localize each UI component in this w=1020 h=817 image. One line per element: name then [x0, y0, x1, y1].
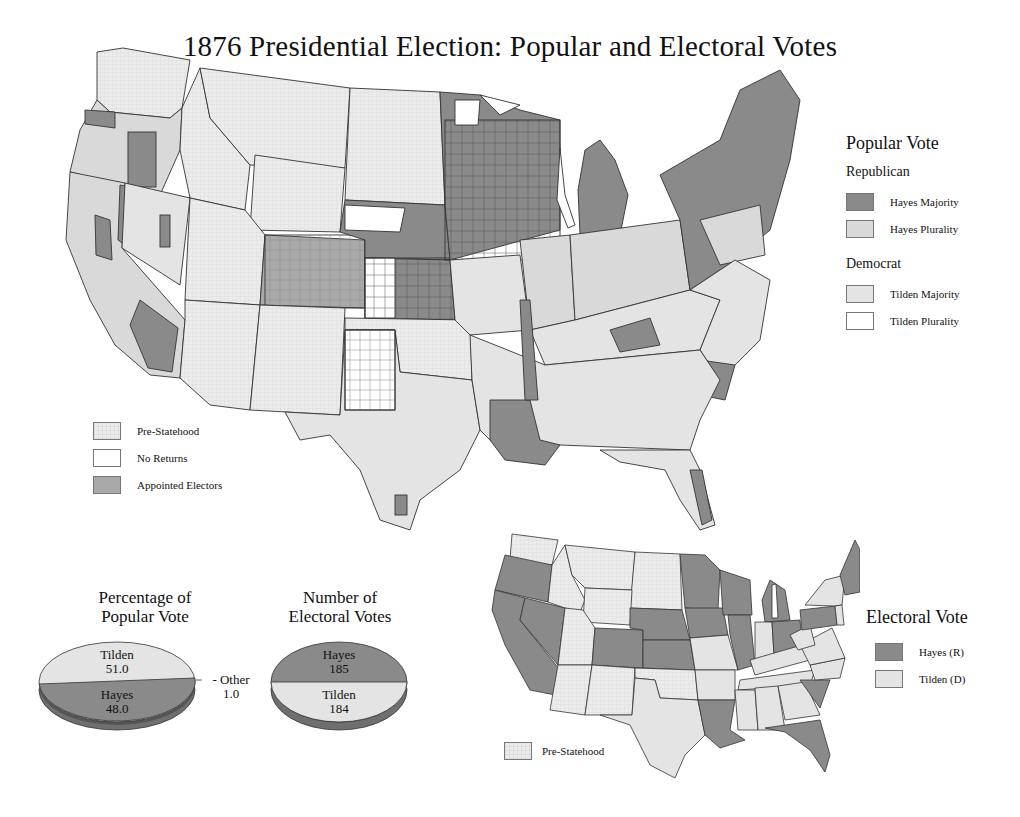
legend-item-tilden-majority: Tilden Majority [846, 280, 1016, 307]
electoral-vote-heading: Electoral Vote [866, 607, 1016, 628]
state-wyoming [583, 588, 632, 625]
no-returns-swatch [93, 449, 121, 467]
tilden-electoral-label: Tilden 184 [314, 688, 364, 716]
legend-item-tilden-plurality: Tilden Plurality [846, 307, 1016, 334]
electoral-pre-statehood-legend: Pre-Statehood [504, 737, 644, 764]
legend-item-hayes-plurality: Hayes Plurality [846, 215, 1016, 242]
hayes-majority-swatch [846, 193, 874, 211]
state-new-mexico [585, 665, 635, 715]
legend-item-hayes-r: Hayes (R) [866, 638, 1016, 665]
state-colorado [592, 628, 643, 668]
state-arkansas [695, 670, 735, 700]
republican-group-label: Republican [846, 164, 1016, 180]
electoral-vote-legend: Electoral Vote Hayes (R) Tilden (D) [866, 607, 1016, 692]
electoral-vote-pie-title: Number of Electoral Votes [265, 588, 415, 626]
state-florida [765, 720, 830, 772]
legend-item-tilden-d: Tilden (D) [866, 665, 1016, 692]
electoral-vote-pie-chart: Number of Electoral Votes Hayes 185 Tild… [265, 588, 415, 728]
tilden-d-swatch [875, 670, 903, 688]
popular-vote-pie-chart: Percentage of Popular Vote Tilden 51.0 H… [30, 588, 260, 728]
region-missouri [450, 255, 530, 335]
status-legend: Pre-Statehood No Returns Appointed Elect… [93, 417, 263, 498]
region-wyoming [250, 155, 345, 232]
tilden-plurality-swatch [846, 312, 874, 330]
state-mississippi [735, 690, 758, 730]
state-kansas [643, 640, 695, 670]
popular-vote-pie-title: Percentage of Popular Vote [30, 588, 260, 626]
region-michigan [578, 140, 628, 235]
region-arizona [180, 300, 260, 410]
state-minnesota [680, 554, 720, 610]
pre-statehood-swatch [93, 422, 121, 440]
democrat-group-label: Democrat [846, 256, 1016, 272]
appointed-electors-swatch [93, 476, 121, 494]
legend-item-no-returns: No Returns [93, 444, 263, 471]
state-wisconsin [720, 570, 752, 615]
state-pennsylvania [800, 606, 837, 630]
popular-vote-heading: Popular Vote [846, 133, 1016, 154]
popular-vote-legend: Popular Vote Republican Hayes Majority H… [846, 133, 1016, 334]
state-iowa [685, 608, 728, 638]
legend-item-pre-statehood: Pre-Statehood [93, 417, 263, 444]
hayes-plurality-swatch [846, 220, 874, 238]
other-popular-label: - Other 1.0 [206, 673, 256, 701]
legend-item-hayes-majority: Hayes Majority [846, 188, 1016, 215]
electoral-pre-statehood-swatch [504, 742, 532, 760]
tilden-majority-swatch [846, 285, 874, 303]
region-dakota [345, 88, 445, 205]
state-dakota [630, 552, 682, 610]
legend-item-electoral-pre-statehood: Pre-Statehood [504, 737, 644, 764]
region-washington [97, 48, 190, 118]
tilden-popular-label: Tilden 51.0 [92, 648, 142, 676]
state-new-jersey [835, 605, 844, 625]
hayes-r-swatch [875, 643, 903, 661]
hayes-electoral-label: Hayes 185 [314, 648, 364, 676]
region-new-mexico [250, 305, 345, 415]
hayes-popular-label: Hayes 48.0 [92, 688, 142, 716]
state-new-england [840, 540, 860, 595]
legend-item-appointed-electors: Appointed Electors [93, 471, 263, 498]
state-new-york [805, 575, 845, 606]
